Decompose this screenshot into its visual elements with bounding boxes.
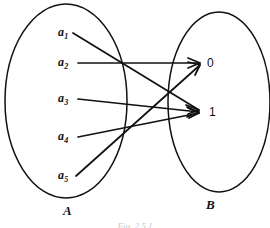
element-label-a4: a4 (58, 130, 68, 142)
set-b-ellipse (168, 12, 270, 192)
element-label-a5: a5 (58, 169, 68, 181)
mapping-arrow-a2-to-0 (78, 58, 200, 68)
element-label-a2: a2 (58, 56, 68, 68)
set-name-a: A (63, 204, 72, 217)
set-name-b: B (206, 198, 215, 211)
element-label-a3: a3 (58, 92, 68, 104)
element-label-a1: a1 (58, 26, 68, 38)
mapping-diagram-figure: a1 a2 a3 a4 a5 0 1 A B Fig. 2.5.1 (0, 0, 270, 228)
mapping-arrow-a3-to-1 (78, 99, 199, 117)
element-label-1: 1 (209, 106, 216, 118)
diagram-canvas (0, 0, 270, 228)
mapping-arrow-a4-to-1 (78, 108, 199, 137)
figure-caption: Fig. 2.5.1 (0, 222, 270, 228)
mapping-arrow-a5-to-0 (76, 62, 200, 176)
element-label-0: 0 (207, 57, 214, 69)
